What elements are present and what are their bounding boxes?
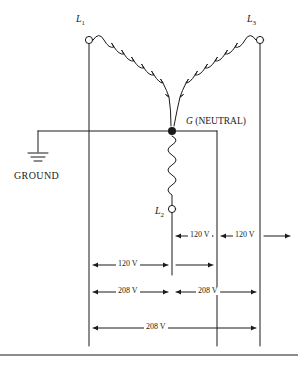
dimension-label-208v-bottom: 208 V bbox=[144, 323, 168, 331]
terminal-label-l1: L1 bbox=[76, 14, 85, 27]
terminal-label-l2: L2 bbox=[155, 206, 164, 219]
neutral-junction-dot bbox=[168, 127, 176, 135]
dimension-label-120v-mid: 120 V bbox=[116, 260, 140, 268]
dimension-label-120v-outer-right: 120 V bbox=[233, 231, 257, 239]
terminal-circle-l2 bbox=[168, 205, 175, 212]
ground-label: GROUND bbox=[14, 171, 59, 181]
winding-coil-l3 bbox=[174, 36, 256, 127]
terminal-label-l3: L3 bbox=[247, 14, 256, 27]
dimension-label-208v-left: 208 V bbox=[116, 287, 140, 295]
terminal-circle-l1 bbox=[85, 36, 92, 43]
dimension-label-120v-inner-right: 120 V bbox=[188, 231, 212, 239]
terminal-circle-l3 bbox=[256, 36, 263, 43]
wye-connection-diagram: L1 L3 L2 G (NEUTRAL) GROUND 120 V 120 V … bbox=[0, 0, 298, 369]
schematic-drawing bbox=[0, 0, 298, 369]
dimension-row-4 bbox=[93, 325, 256, 330]
dimension-label-208v-right: 208 V bbox=[196, 287, 220, 295]
dimension-row-2 bbox=[93, 262, 213, 267]
neutral-label: G (NEUTRAL) bbox=[186, 117, 246, 127]
winding-coil-l2 bbox=[168, 136, 176, 205]
winding-coil-l1 bbox=[93, 36, 171, 127]
